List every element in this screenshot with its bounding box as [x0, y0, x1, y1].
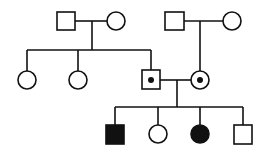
- individual-II-2-female-unaffected: [69, 71, 87, 89]
- individual-III-4-male-unaffected: [234, 125, 252, 144]
- pedigree-chart: [0, 0, 265, 154]
- sibship-III: [115, 107, 243, 125]
- individual-III-3-female-affected: [191, 125, 209, 143]
- individual-II-4-female-carrier: [191, 71, 209, 89]
- individual-I-4-female-unaffected: [223, 12, 241, 30]
- individual-II-1-female-unaffected: [18, 71, 36, 89]
- individual-III-1-male-affected: [106, 125, 124, 144]
- mating-I-3-I-4: [184, 21, 223, 71]
- individual-I-2-female-unaffected: [107, 12, 125, 30]
- individual-I-3-male-unaffected: [165, 12, 184, 30]
- individual-II-3-male-carrier: [142, 70, 160, 89]
- mating-II-3-II-4: [160, 80, 191, 107]
- carrier-dot-icon: [197, 77, 203, 83]
- sibship-II: [27, 50, 151, 71]
- individual-I-1-male-unaffected: [57, 12, 75, 30]
- mating-I-1-I-2: [75, 21, 107, 50]
- carrier-dot-icon: [148, 77, 154, 83]
- individual-III-2-female-unaffected: [149, 125, 167, 143]
